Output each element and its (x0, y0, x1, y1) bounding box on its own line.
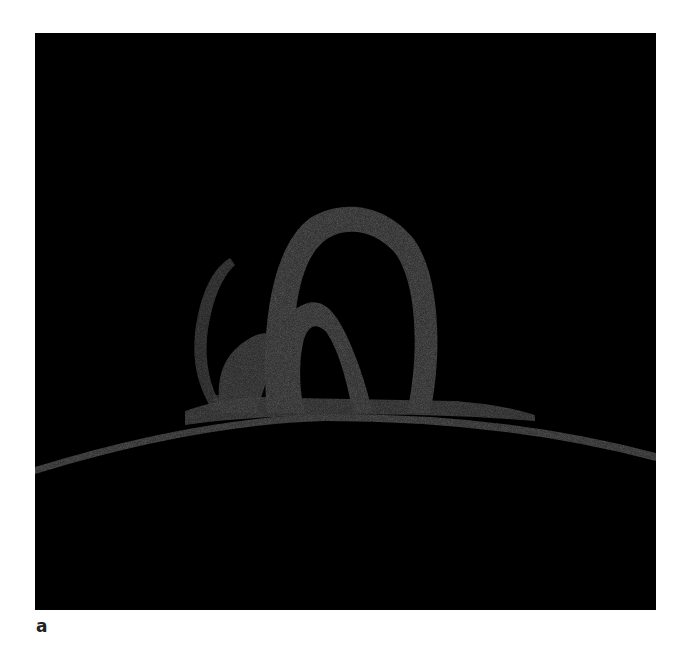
panel-label: a (36, 618, 47, 635)
solar-prominence-photo (35, 33, 656, 610)
prominence-illustration (35, 33, 656, 610)
